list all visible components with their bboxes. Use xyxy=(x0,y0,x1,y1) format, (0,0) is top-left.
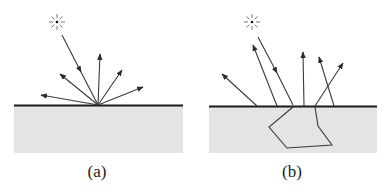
exiting-rays-b xyxy=(222,45,343,106)
light-source-icon xyxy=(49,14,65,30)
reflected-rays-a xyxy=(41,54,143,105)
light-source-icon xyxy=(244,14,260,30)
panel-b-label: (b) xyxy=(282,162,302,182)
panel-a-label: (a) xyxy=(88,162,107,182)
material-block-b xyxy=(209,107,377,153)
diagram-canvas xyxy=(0,0,388,195)
panel-a xyxy=(14,14,183,153)
incident-ray-a xyxy=(62,35,98,105)
panel-b xyxy=(209,14,377,153)
material-block-a xyxy=(14,106,183,153)
